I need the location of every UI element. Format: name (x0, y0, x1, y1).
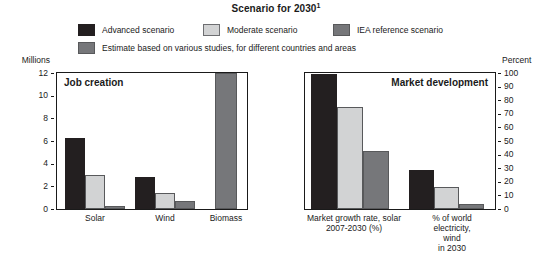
y-axis-tick-label: 30 (504, 164, 513, 173)
y-axis-tick-label: 100 (504, 69, 518, 78)
y-axis-tick-mark (51, 73, 54, 74)
y-axis-tick-label: 4 (43, 159, 48, 168)
y-axis-tick-label: 60 (504, 123, 513, 132)
x-axis-category-label: Market growth rate, solar 2007-2030 (%) (307, 213, 401, 233)
y-axis-tick-label: 10 (504, 191, 513, 200)
x-axis-category-label: Wind (155, 213, 174, 223)
chart-legend: Advanced scenario Moderate scenario IEA … (0, 22, 552, 58)
y-axis-tick-label: 8 (43, 114, 48, 123)
y-axis-tick-label: 50 (504, 137, 513, 146)
y-axis-tick-mark (498, 209, 501, 210)
y-axis-tick-label: 90 (504, 82, 513, 91)
x-axis-category-label: Solar (85, 213, 105, 223)
x-axis-category-label: % of world electricity, wind in 2030 (430, 213, 474, 253)
y-axis-tick-mark (51, 209, 54, 210)
y-axis-tick-mark (51, 118, 54, 119)
y-axis-tick-label: 10 (39, 91, 48, 100)
y-axis-tick-label: 12 (39, 69, 48, 78)
legend-swatch-icon (78, 24, 95, 36)
chart-panel-job-creation: Job creation (56, 72, 248, 210)
y-axis-tick-mark (498, 114, 501, 115)
bar (135, 177, 155, 209)
y-axis-tick-mark (498, 73, 501, 74)
legend-swatch-icon (78, 42, 95, 54)
x-axis-labels-market-development: Market growth rate, solar 2007-2030 (%)%… (304, 213, 496, 247)
y-axis-tick-label: 6 (43, 137, 48, 146)
bar (459, 204, 484, 209)
y-axis-tick-label: 70 (504, 109, 513, 118)
bar (215, 73, 237, 209)
y-axis-tick-mark (51, 164, 54, 165)
y-axis-tick-mark (498, 127, 501, 128)
chart-panel-title: Job creation (64, 77, 123, 88)
legend-item-advanced-scenario: Advanced scenario (78, 24, 174, 36)
plot-area-market-development (305, 73, 495, 209)
y-axis-tick-mark (498, 195, 501, 196)
x-axis-labels-job-creation: SolarWindBiomass (56, 213, 248, 247)
y-axis-tick-label: 2 (43, 182, 48, 191)
bar (105, 206, 125, 209)
y-axis-tick-label: 20 (504, 177, 513, 186)
legend-item-estimate-various-studies: Estimate based on various studies, for d… (78, 42, 356, 54)
bar (311, 74, 337, 209)
y-axis-tick-mark (498, 168, 501, 169)
chart-panel-market-development: Market development (304, 72, 496, 210)
bar (175, 201, 195, 209)
legend-swatch-icon (203, 24, 220, 36)
page-title-text: Scenario for 2030 (231, 3, 316, 14)
page-title: Scenario for 20301 (0, 3, 552, 14)
y-axis-tick-mark (51, 186, 54, 187)
y-axis-tick-mark (51, 141, 54, 142)
y-axis-tick-label: 40 (504, 150, 513, 159)
y-axis-tick-mark (498, 87, 501, 88)
y-axis-tick-label: 0 (504, 205, 509, 214)
x-axis-category-label: Biomass (210, 213, 243, 223)
bar (409, 170, 434, 209)
legend-label: IEA reference scenario (357, 25, 443, 35)
y-axis-tick-mark (498, 182, 501, 183)
y-axis-tick-mark (498, 155, 501, 156)
legend-item-iea-reference-scenario: IEA reference scenario (333, 24, 443, 36)
legend-label: Estimate based on various studies, for d… (102, 43, 356, 53)
y-axis-right-unit: Percent (502, 55, 531, 65)
y-axis-right: Percent 1009080706050403020100 (498, 72, 544, 210)
legend-swatch-icon (333, 24, 350, 36)
y-axis-tick-mark (51, 96, 54, 97)
y-axis-tick-label: 0 (43, 205, 48, 214)
bar (434, 187, 459, 209)
legend-item-moderate-scenario: Moderate scenario (203, 24, 297, 36)
plot-area-job-creation (57, 73, 247, 209)
legend-label: Advanced scenario (102, 25, 174, 35)
y-axis-tick-mark (498, 100, 501, 101)
page-title-footnote-marker: 1 (317, 2, 321, 9)
y-axis-left-unit: Millions (22, 55, 50, 65)
y-axis-tick-mark (498, 141, 501, 142)
bar (363, 151, 389, 209)
y-axis-left: Millions 121086420 (8, 72, 54, 210)
bar (155, 193, 175, 209)
bar (85, 175, 105, 209)
legend-label: Moderate scenario (227, 25, 297, 35)
bar (337, 107, 363, 209)
bar (65, 138, 85, 209)
chart-panel-title: Market development (391, 77, 488, 88)
y-axis-tick-label: 80 (504, 96, 513, 105)
